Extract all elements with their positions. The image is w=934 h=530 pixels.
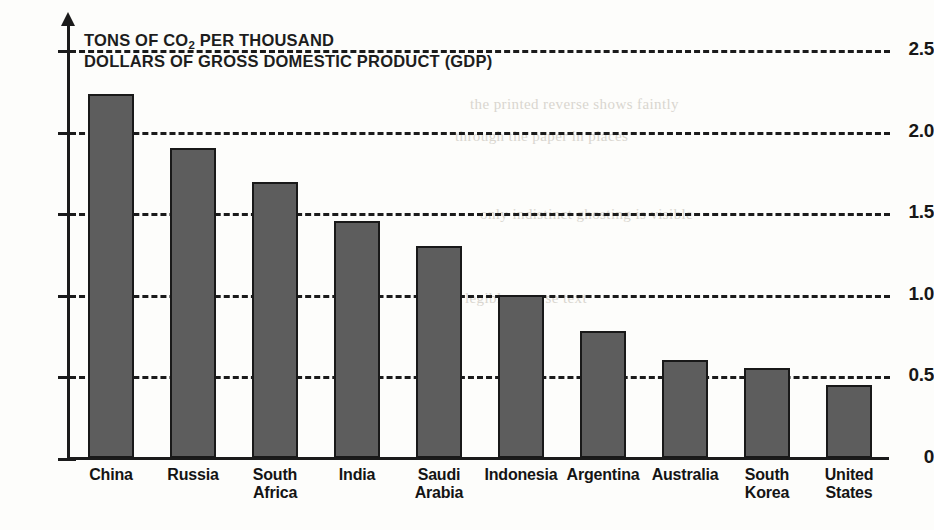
category-label-line-1: Indonesia: [480, 466, 562, 484]
category-label-line-2: Africa: [234, 484, 316, 502]
category-label-line-1: India: [316, 466, 398, 484]
x-axis-category-label: SaudiArabia: [398, 466, 480, 502]
bar: [88, 94, 134, 458]
bar: [662, 360, 708, 458]
category-label-line-1: United: [808, 466, 890, 484]
x-axis-category-label: India: [316, 466, 398, 484]
category-label-line-1: Saudi: [398, 466, 480, 484]
bar: [170, 148, 216, 458]
bar: [580, 331, 626, 458]
bar: [498, 295, 544, 458]
x-axis-category-label: Argentina: [562, 466, 644, 484]
bar-chart: 2.52.01.51.00.50 TONS OF CO2 PER THOUSAN…: [0, 0, 934, 530]
category-label-line-1: South: [234, 466, 316, 484]
x-axis-category-label: China: [70, 466, 152, 484]
x-axis-category-label: UnitedStates: [808, 466, 890, 502]
x-axis-category-label: Russia: [152, 466, 234, 484]
category-label-line-2: States: [808, 484, 890, 502]
category-label-line-2: Korea: [726, 484, 808, 502]
bar: [416, 246, 462, 458]
x-axis-category-label: SouthAfrica: [234, 466, 316, 502]
category-label-line-2: Arabia: [398, 484, 480, 502]
bar: [826, 385, 872, 458]
bar: [334, 221, 380, 458]
x-axis-category-label: SouthKorea: [726, 466, 808, 502]
bars-layer: [0, 0, 934, 530]
bar: [744, 368, 790, 458]
category-label-line-1: Australia: [644, 466, 726, 484]
x-axis-category-label: Australia: [644, 466, 726, 484]
bar: [252, 182, 298, 458]
x-axis-category-label: Indonesia: [480, 466, 562, 484]
category-label-line-1: South: [726, 466, 808, 484]
category-label-line-1: China: [70, 466, 152, 484]
category-label-line-1: Russia: [152, 466, 234, 484]
chart-page: the printed reverse shows faintly throug…: [0, 0, 934, 530]
category-label-line-1: Argentina: [562, 466, 644, 484]
